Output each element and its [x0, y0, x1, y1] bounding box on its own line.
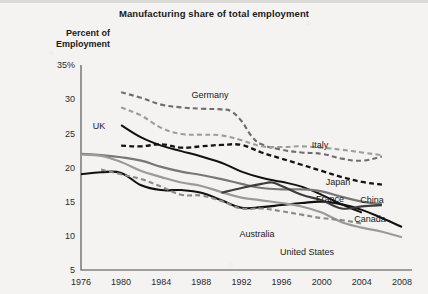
x-tick-label: 2008 [392, 277, 412, 287]
x-tick-label: 2004 [352, 277, 372, 287]
series-label-china: China [360, 195, 384, 205]
x-tick-label: 1980 [111, 277, 131, 287]
series-label-italy: Italy [312, 140, 329, 150]
series-label-united-states: United States [280, 247, 335, 257]
series-label-france: France [316, 194, 344, 204]
series-label-japan: Japan [326, 177, 351, 187]
x-tick-label: 1976 [71, 277, 91, 287]
x-tick-label: 1988 [191, 277, 211, 287]
y-tick-label: 5 [70, 265, 75, 275]
y-tick-label: 15 [65, 197, 75, 207]
series-line-united-states [81, 155, 402, 238]
x-tick-label: 1996 [272, 277, 292, 287]
y-tick-label: 25 [65, 129, 75, 139]
series-label-uk: UK [93, 121, 106, 131]
series-labels: GermanyItalyUKJapanFranceChinaCanadaAust… [93, 90, 386, 257]
x-axis-tick-labels: 197619801984198819921996200020042008 [71, 277, 412, 287]
x-tick-label: 1992 [231, 277, 251, 287]
chart-container: Manufacturing share of total employment … [0, 0, 428, 294]
y-axis-tick-labels: 35%30252015105 [57, 60, 75, 275]
series-label-australia: Australia [239, 229, 274, 239]
y-tick-label: 30 [65, 94, 75, 104]
series-label-canada: Canada [354, 214, 386, 224]
y-tick-label: 20 [65, 163, 75, 173]
line-chart-plot: 35%30252015105 1976198019841988199219962… [0, 0, 428, 294]
y-tick-label: 10 [65, 231, 75, 241]
series-label-germany: Germany [191, 90, 229, 100]
x-tick-label: 2000 [312, 277, 332, 287]
y-tick-label: 35% [57, 60, 75, 70]
x-tick-label: 1984 [151, 277, 171, 287]
